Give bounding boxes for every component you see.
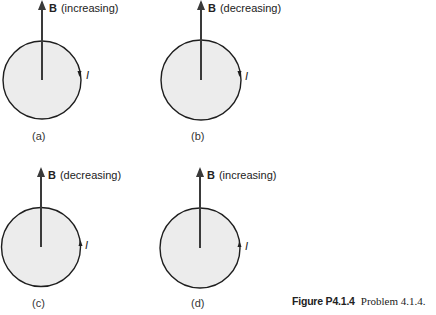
caption-text: Problem 4.1.4. (361, 295, 426, 307)
b-arrowhead-icon (197, 0, 205, 10)
b-state: (increasing) (219, 169, 276, 181)
svg-text:B(increasing): B(increasing) (207, 169, 276, 181)
current-label: I (86, 69, 89, 81)
caption-label: Figure P4.1.4 (292, 295, 355, 307)
b-state: (decreasing) (220, 2, 281, 14)
panel-sublabel: (b) (191, 130, 204, 142)
panel-b: B(decreasing) I (b) (161, 0, 281, 142)
panel-a: B(increasing) I (a) (3, 0, 118, 142)
figure-canvas: B(increasing) I (a) B(decreasing) I (b) … (0, 0, 436, 315)
figure-caption: Figure P4.1.4Problem 4.1.4. (292, 291, 426, 309)
b-arrowhead-icon (38, 0, 46, 10)
panel-sublabel: (d) (191, 297, 204, 309)
b-state: (increasing) (61, 2, 118, 14)
b-symbol: B (48, 169, 56, 181)
b-arrowhead-icon (196, 167, 204, 177)
panel-sublabel: (a) (32, 130, 45, 142)
b-symbol: B (208, 2, 216, 14)
b-state: (decreasing) (60, 169, 121, 181)
b-symbol: B (207, 169, 215, 181)
current-label: I (85, 239, 88, 251)
current-label: I (245, 70, 248, 82)
panel-sublabel: (c) (32, 297, 45, 309)
panel-c: B(decreasing) I (c) (2, 167, 122, 309)
svg-text:B(decreasing): B(decreasing) (48, 169, 121, 181)
b-arrowhead-icon (37, 167, 45, 177)
svg-text:B(increasing): B(increasing) (49, 2, 118, 14)
current-label: I (245, 240, 248, 252)
b-symbol: B (49, 2, 57, 14)
svg-text:B(decreasing): B(decreasing) (208, 2, 281, 14)
panel-d: B(increasing) I (d) (160, 167, 276, 309)
